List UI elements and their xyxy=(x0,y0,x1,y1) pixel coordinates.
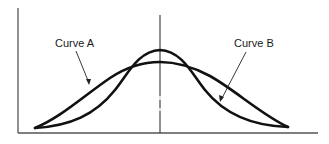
curve-a-arrowhead xyxy=(86,79,91,85)
curve-a-label: Curve A xyxy=(55,37,95,49)
curve-b-label: Curve B xyxy=(234,37,274,49)
distribution-comparison-diagram: Curve A Curve B xyxy=(0,0,329,144)
curve-a xyxy=(35,62,288,128)
curve-a-pointer xyxy=(76,51,89,83)
